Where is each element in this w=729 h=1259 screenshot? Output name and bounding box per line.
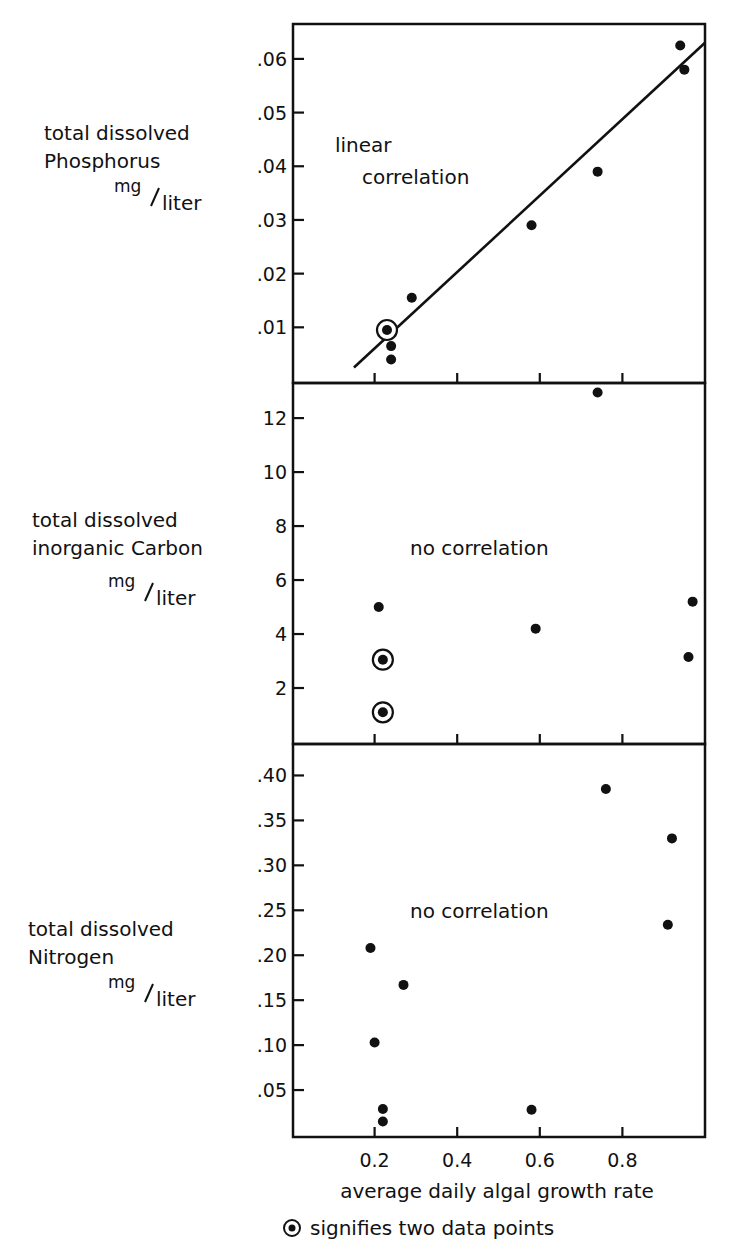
data-point bbox=[663, 920, 673, 930]
correlation-annotation: correlation bbox=[362, 165, 469, 189]
data-point bbox=[688, 597, 698, 607]
x-tick-label: 0.4 bbox=[442, 1149, 472, 1171]
y-axis-label-line: total dissolved bbox=[44, 121, 190, 145]
data-point-double bbox=[377, 320, 397, 340]
y-axis-label: total dissolvedPhosphorusmgliter bbox=[44, 121, 202, 215]
y-tick-label: 6 bbox=[275, 569, 287, 591]
data-point bbox=[601, 784, 611, 794]
data-point bbox=[667, 833, 677, 843]
y-tick-label: 12 bbox=[263, 407, 287, 429]
panel-bottom: .05.10.15.20.25.30.35.40total dissolvedN… bbox=[28, 744, 705, 1137]
x-tick-label: 0.8 bbox=[607, 1149, 637, 1171]
data-point-double bbox=[373, 650, 393, 670]
data-point bbox=[374, 602, 384, 612]
data-point bbox=[593, 167, 603, 177]
figure: .01.02.03.04.05.06total dissolvedPhospho… bbox=[0, 0, 729, 1259]
data-point bbox=[531, 624, 541, 634]
y-tick-label: .04 bbox=[257, 155, 287, 177]
y-tick-label: .25 bbox=[257, 899, 287, 921]
y-tick-label: .02 bbox=[257, 263, 287, 285]
plot-frame bbox=[293, 744, 705, 1137]
y-tick-label: .20 bbox=[257, 944, 287, 966]
y-tick-label: .06 bbox=[257, 48, 287, 70]
data-point bbox=[675, 40, 685, 50]
y-tick-label: .05 bbox=[257, 1079, 287, 1101]
y-tick-label: .15 bbox=[257, 989, 287, 1011]
x-axis-label: average daily algal growth rate bbox=[340, 1179, 654, 1203]
circled-dot-icon-center bbox=[289, 1225, 296, 1232]
y-axis-label: total dissolvedNitrogenmgliter bbox=[28, 917, 196, 1011]
correlation-annotation: linear bbox=[335, 133, 392, 157]
y-tick-label: .05 bbox=[257, 102, 287, 124]
unit-slash bbox=[151, 188, 159, 206]
unit-numerator: mg bbox=[108, 571, 135, 591]
unit-denominator: liter bbox=[162, 191, 202, 215]
unit-denominator: liter bbox=[156, 586, 196, 610]
y-tick-label: .40 bbox=[257, 764, 287, 786]
data-point bbox=[593, 387, 603, 397]
unit-denominator: liter bbox=[156, 987, 196, 1011]
data-point bbox=[407, 293, 417, 303]
data-point bbox=[679, 65, 689, 75]
data-point bbox=[527, 1105, 537, 1115]
data-point bbox=[378, 1117, 388, 1127]
y-tick-label: .03 bbox=[257, 209, 287, 231]
data-point bbox=[386, 355, 396, 365]
unit-numerator: mg bbox=[114, 176, 141, 196]
data-point bbox=[370, 1037, 380, 1047]
plot-frame bbox=[293, 383, 705, 744]
y-tick-label: 2 bbox=[275, 677, 287, 699]
data-point bbox=[378, 1104, 388, 1114]
legend: signifies two data points bbox=[284, 1216, 554, 1240]
x-tick-label: 0.6 bbox=[525, 1149, 555, 1171]
y-tick-label: .35 bbox=[257, 809, 287, 831]
plot-frame bbox=[293, 24, 705, 383]
y-axis-label: total dissolvedinorganic Carbonmgliter bbox=[32, 508, 203, 610]
panel-middle: 24681012total dissolvedinorganic Carbonm… bbox=[32, 383, 705, 744]
data-point bbox=[386, 341, 396, 351]
unit-slash bbox=[145, 984, 153, 1002]
unit-numerator: mg bbox=[108, 972, 135, 992]
correlation-annotation: no correlation bbox=[410, 536, 549, 560]
y-tick-label: 10 bbox=[263, 461, 287, 483]
y-tick-label: .10 bbox=[257, 1034, 287, 1056]
y-tick-label: 8 bbox=[275, 515, 287, 537]
trend-line bbox=[354, 43, 705, 368]
legend-text: signifies two data points bbox=[310, 1216, 554, 1240]
data-point bbox=[399, 980, 409, 990]
x-tick-label: 0.2 bbox=[359, 1149, 389, 1171]
unit-slash bbox=[145, 583, 153, 601]
y-tick-label: 4 bbox=[275, 623, 287, 645]
y-tick-label: .30 bbox=[257, 854, 287, 876]
data-point-double bbox=[373, 702, 393, 722]
y-axis-label-line: total dissolved bbox=[32, 508, 178, 532]
correlation-annotation: no correlation bbox=[410, 899, 549, 923]
panel-top: .01.02.03.04.05.06total dissolvedPhospho… bbox=[44, 24, 705, 383]
y-axis-label-line: total dissolved bbox=[28, 917, 174, 941]
data-point bbox=[527, 220, 537, 230]
y-axis-label-line: inorganic Carbon bbox=[32, 536, 203, 560]
data-point bbox=[365, 943, 375, 953]
y-tick-label: .01 bbox=[257, 316, 287, 338]
y-axis-label-line: Phosphorus bbox=[44, 149, 160, 173]
y-axis-label-line: Nitrogen bbox=[28, 945, 114, 969]
data-point bbox=[683, 652, 693, 662]
